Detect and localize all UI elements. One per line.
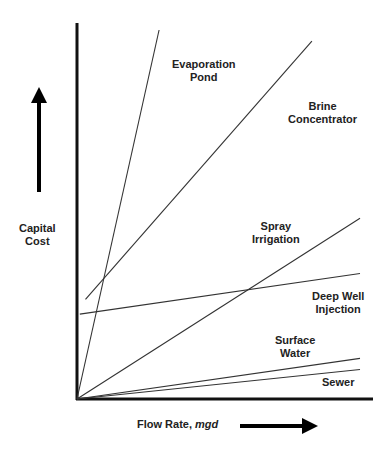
- series-line-sewer: [77, 369, 360, 399]
- label-brine-concentrator: BrineConcentrator: [288, 100, 357, 126]
- label-sewer: Sewer: [322, 376, 354, 389]
- label-spray-irrigation: SprayIrrigation: [252, 220, 300, 246]
- label-deep-well-injection: Deep WellInjection: [312, 290, 364, 316]
- y-axis-label: CapitalCost: [19, 222, 56, 248]
- x-axis-label: Flow Rate, mgd: [137, 418, 218, 430]
- series-line-evaporation-pond: [77, 30, 159, 399]
- series-line-surface-water: [77, 358, 360, 399]
- label-evaporation-pond: EvaporationPond: [172, 58, 236, 84]
- label-surface-water: SurfaceWater: [275, 334, 315, 360]
- series-lines: [77, 30, 360, 399]
